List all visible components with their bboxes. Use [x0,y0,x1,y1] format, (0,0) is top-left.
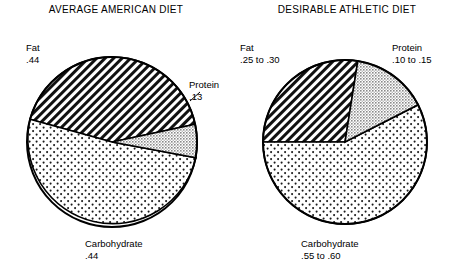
label-protein: Protein .13 [189,79,219,103]
label-carbohydrate: Carbohydrate .55 to .60 [301,238,359,262]
label-fat-value: .25 to .30 [240,54,280,66]
label-fat-name: Fat [26,42,40,54]
label-carbohydrate-value: .55 to .60 [301,250,359,262]
label-carbohydrate: Carbohydrate .44 [85,238,143,262]
label-fat-value: .44 [26,54,40,66]
diet-pie-chart-figure: AVERAGE AMERICAN DIET [0,0,463,272]
pie-chart-desirable-athletic-diet [231,0,463,272]
label-carbohydrate-name: Carbohydrate [301,238,359,250]
label-protein-value: .13 [189,91,219,103]
pie-chart-average-american-diet [0,0,232,272]
label-protein-name: Protein [189,79,219,91]
label-protein-name: Protein [392,42,432,54]
label-fat: Fat .25 to .30 [240,42,280,66]
label-protein: Protein .10 to .15 [392,42,432,66]
label-carbohydrate-value: .44 [85,250,143,262]
label-fat-name: Fat [240,42,280,54]
pie-slice-fat [263,60,358,142]
panel-desirable-athletic-diet: DESIRABLE ATHLETIC DIET [231,0,463,272]
label-protein-value: .10 to .15 [392,54,432,66]
panel-average-american-diet: AVERAGE AMERICAN DIET [0,0,232,272]
label-carbohydrate-name: Carbohydrate [85,238,143,250]
label-fat: Fat .44 [26,42,40,66]
